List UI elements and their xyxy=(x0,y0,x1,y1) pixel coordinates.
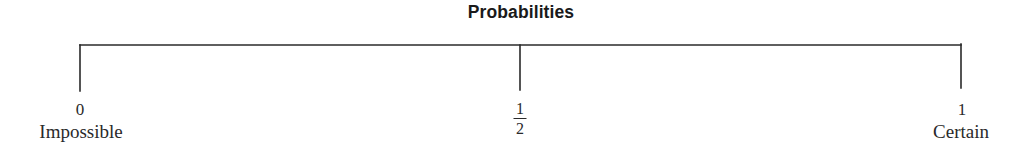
probability-scale-lines xyxy=(0,0,1018,158)
fraction-denominator: 2 xyxy=(516,120,524,137)
fraction-bar xyxy=(514,118,527,119)
fraction-numerator: 1 xyxy=(516,100,524,117)
marker-label-impossible: Impossible xyxy=(39,121,122,143)
marker-value-zero: 0 xyxy=(76,100,85,120)
marker-value-one: 1 xyxy=(958,100,967,120)
marker-label-certain: Certain xyxy=(933,121,989,143)
marker-fraction-half: 1 2 xyxy=(514,100,527,137)
